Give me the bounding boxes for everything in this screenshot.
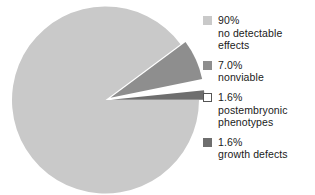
legend-item-postembryonic-phenotypes[interactable]: 1.6% postembryonic phenotypes bbox=[203, 91, 315, 129]
legend-line-2: postembryonic bbox=[218, 104, 288, 117]
legend-label-no-detectable-effects: 90% no detectable effects bbox=[218, 14, 282, 52]
legend-line-1: 90% bbox=[218, 14, 282, 27]
legend-item-growth-defects[interactable]: 1.6% growth defects bbox=[203, 136, 315, 161]
legend-line-3: effects bbox=[218, 39, 282, 52]
pie-slice-group bbox=[12, 6, 204, 193]
pie-chart-figure: 90% no detectable effects 7.0% nonviable… bbox=[0, 0, 315, 195]
legend-swatch-postembryonic-phenotypes bbox=[203, 93, 212, 102]
legend-line-1: 1.6% bbox=[218, 136, 288, 149]
legend-line-2: growth defects bbox=[218, 148, 288, 161]
legend-line-1: 7.0% bbox=[218, 59, 264, 72]
chart-legend: 90% no detectable effects 7.0% nonviable… bbox=[203, 14, 315, 168]
legend-label-postembryonic-phenotypes: 1.6% postembryonic phenotypes bbox=[218, 91, 288, 129]
legend-label-growth-defects: 1.6% growth defects bbox=[218, 136, 288, 161]
legend-label-nonviable: 7.0% nonviable bbox=[218, 59, 264, 84]
legend-item-no-detectable-effects[interactable]: 90% no detectable effects bbox=[203, 14, 315, 52]
legend-line-1: 1.6% bbox=[218, 91, 288, 104]
legend-swatch-nonviable bbox=[203, 61, 212, 70]
legend-line-3: phenotypes bbox=[218, 116, 288, 129]
pie-chart-plot-area bbox=[0, 0, 205, 195]
legend-item-nonviable[interactable]: 7.0% nonviable bbox=[203, 59, 315, 84]
legend-swatch-no-detectable-effects bbox=[203, 16, 212, 25]
legend-swatch-growth-defects bbox=[203, 138, 212, 147]
pie-slice-no-detectable-effects[interactable] bbox=[12, 6, 199, 193]
legend-line-2: no detectable bbox=[218, 27, 282, 40]
legend-line-2: nonviable bbox=[218, 71, 264, 84]
pie-chart-svg bbox=[0, 0, 205, 195]
